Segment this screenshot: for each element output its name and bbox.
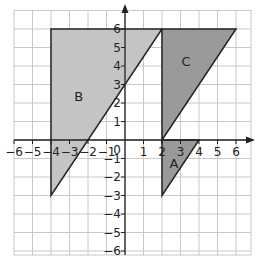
x-tick-label: 2 <box>158 145 166 159</box>
y-axis-arrow-icon <box>122 4 129 13</box>
y-tick-label: −3 <box>103 189 121 203</box>
x-tick-label: 6 <box>232 145 240 159</box>
x-tick-label: 1 <box>140 145 148 159</box>
y-tick-label: 1 <box>113 115 121 129</box>
label-a: A <box>170 156 179 171</box>
coordinate-grid: −6−5−4−3−2−11234560654321−1−2−3−4−5−6 AB… <box>0 0 258 269</box>
x-tick-label: 4 <box>195 145 203 159</box>
y-tick-label: −4 <box>103 207 121 221</box>
x-tick-label: 5 <box>214 145 222 159</box>
x-tick-label: −2 <box>79 145 97 159</box>
y-tick-label: 4 <box>113 59 121 73</box>
x-tick-label: −3 <box>61 145 79 159</box>
y-tick-label: −6 <box>103 244 121 258</box>
x-tick-label: −6 <box>5 145 23 159</box>
y-tick-label: −2 <box>103 170 121 184</box>
y-tick-label: 6 <box>113 22 121 36</box>
label-c: C <box>182 54 191 69</box>
y-tick-label: 2 <box>113 96 121 110</box>
x-tick-label: −4 <box>42 145 60 159</box>
x-tick-label: −5 <box>24 145 42 159</box>
y-tick-label: 5 <box>113 41 121 55</box>
y-tick-label: −5 <box>103 226 121 240</box>
label-b: B <box>74 89 83 104</box>
y-tick-label: −1 <box>103 152 121 166</box>
y-tick-label: 3 <box>113 78 121 92</box>
